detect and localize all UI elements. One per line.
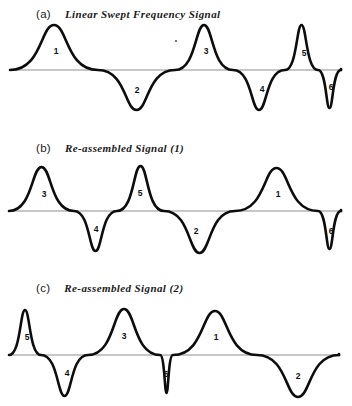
segment-label: 1 — [214, 332, 219, 342]
figure-container: (a)Linear Swept Frequency Signal123456(b… — [0, 0, 352, 406]
segment-label: 2 — [296, 371, 301, 381]
waveform-panel-c: 543612 — [0, 0, 352, 406]
segment-label: 5 — [25, 332, 30, 342]
signal-curve — [9, 309, 339, 397]
segment-label: 4 — [65, 368, 70, 378]
segment-label: 3 — [122, 331, 127, 341]
segment-label: 6 — [164, 369, 169, 379]
